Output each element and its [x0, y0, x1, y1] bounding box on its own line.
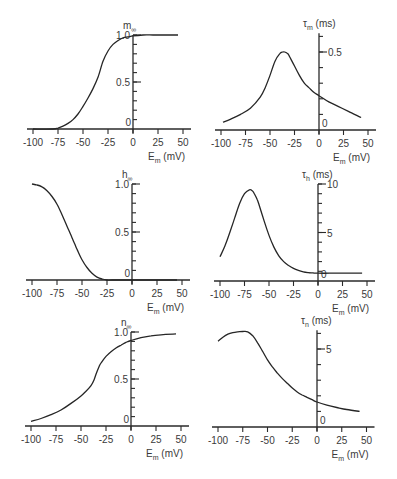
- x-tick-label: 0: [128, 434, 134, 445]
- x-axis-label: Em (mV): [332, 449, 369, 462]
- x-tick-label: -75: [51, 137, 66, 148]
- y-tick-label: 0: [125, 117, 131, 128]
- y-tick-label: 5: [326, 344, 332, 355]
- data-curve-tau-m: [223, 52, 361, 122]
- x-tick-label: -50: [74, 434, 89, 445]
- data-curve-m-inf: [33, 35, 178, 129]
- x-tick-label: -50: [75, 288, 90, 299]
- x-tick-label: -100: [22, 288, 42, 299]
- x-tick-label: -50: [263, 138, 278, 149]
- x-tick-label: 25: [337, 289, 349, 300]
- figure-canvas: -100-75-50-2502550Em (mV)00.51.0m∞ -100-…: [0, 0, 397, 479]
- x-tick-label: 50: [176, 288, 188, 299]
- data-curve-n-inf: [31, 334, 176, 421]
- x-tick-label: -75: [50, 288, 65, 299]
- x-tick-label: 25: [150, 434, 162, 445]
- y-tick-label: 0.5: [328, 47, 342, 58]
- x-tick-label: -75: [236, 435, 251, 446]
- x-tick-label: 25: [151, 288, 163, 299]
- x-tick-label: -100: [23, 137, 43, 148]
- x-tick-label: -50: [260, 435, 275, 446]
- x-tick-label: -50: [262, 289, 277, 300]
- y-tick-label: 0.5: [115, 227, 129, 238]
- y-tick-label: 0: [123, 414, 129, 425]
- x-axis-label: Em (mV): [332, 303, 369, 316]
- panel-n-inf: -100-75-50-2502550Em (mV)00.51.0n∞: [21, 317, 189, 461]
- x-tick-label: -100: [208, 435, 228, 446]
- panel-h-inf: -100-75-50-2502550Em (mV)00.51.0h∞: [22, 169, 190, 315]
- x-tick-label: -75: [49, 434, 64, 445]
- x-tick-label: 0: [316, 138, 322, 149]
- y-tick-label: 0: [321, 269, 327, 280]
- x-tick-label: 50: [361, 435, 373, 446]
- panel-tau-m: -100-75-50-2502550Em (mV)00.5τm (ms): [211, 18, 376, 165]
- x-tick-label: 0: [130, 137, 136, 148]
- y-tick-label: 5: [327, 228, 333, 239]
- x-tick-label: -100: [21, 434, 41, 445]
- x-tick-label: 50: [361, 289, 373, 300]
- y-tick-label: 0: [322, 118, 328, 129]
- y-axis-label: τn (ms): [301, 315, 332, 328]
- y-tick-label: 0: [124, 268, 130, 279]
- x-tick-label: -25: [285, 435, 300, 446]
- x-axis-label: Em (mV): [146, 448, 183, 461]
- y-axis-label: τm (ms): [303, 18, 336, 31]
- x-tick-label: -25: [287, 138, 302, 149]
- x-tick-label: -25: [100, 288, 115, 299]
- x-tick-label: 0: [129, 288, 135, 299]
- y-tick-label: 1.0: [116, 30, 130, 41]
- x-tick-label: -100: [211, 138, 231, 149]
- x-tick-label: -75: [238, 138, 253, 149]
- x-tick-label: -100: [210, 289, 230, 300]
- y-tick-label: 0.5: [114, 374, 128, 385]
- x-tick-label: -75: [237, 289, 252, 300]
- data-curve-tau-n: [218, 331, 360, 411]
- x-tick-label: 0: [314, 435, 320, 446]
- x-tick-label: 25: [336, 435, 348, 446]
- y-tick-label: 0: [320, 415, 326, 426]
- x-axis-label: Em (mV): [148, 151, 185, 164]
- y-tick-label: 0.5: [116, 77, 130, 88]
- y-tick-label: 10: [327, 179, 339, 190]
- x-tick-label: -25: [101, 137, 116, 148]
- data-curve-h-inf: [32, 184, 177, 280]
- x-tick-label: -25: [99, 434, 114, 445]
- x-tick-label: 50: [177, 137, 189, 148]
- x-tick-label: 0: [315, 289, 321, 300]
- x-tick-label: 25: [338, 138, 350, 149]
- x-tick-label: 50: [362, 138, 374, 149]
- x-tick-label: 50: [175, 434, 187, 445]
- x-tick-label: 25: [152, 137, 164, 148]
- x-axis-label: Em (mV): [147, 302, 184, 315]
- data-curve-tau-h: [220, 190, 362, 274]
- panel-m-inf: -100-75-50-2502550Em (mV)00.51.0m∞: [23, 20, 191, 164]
- x-tick-label: -25: [286, 289, 301, 300]
- x-tick-label: -50: [76, 137, 91, 148]
- panel-tau-n: -100-75-50-2502550Em (mV)05τn (ms): [208, 315, 375, 462]
- x-axis-label: Em (mV): [333, 152, 370, 165]
- panel-tau-h: -100-75-50-2502550Em (mV)0510τh (ms): [210, 169, 375, 316]
